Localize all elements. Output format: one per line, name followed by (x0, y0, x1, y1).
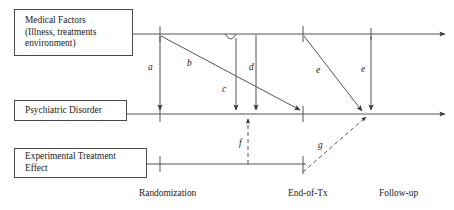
figure-canvas: Medical Factors (Illness, treatments env… (0, 0, 454, 210)
line-hop-bridge (225, 34, 236, 39)
path-label-b: b (187, 58, 192, 68)
path-e1-arrow (304, 36, 362, 111)
path-label-d: d (249, 62, 254, 72)
path-label-c: c (222, 84, 226, 94)
path-g-arrow (303, 117, 366, 172)
path-label-g: g (318, 140, 323, 150)
axis-label-randomization: Randomization (139, 188, 196, 198)
path-b-arrow (161, 36, 300, 110)
path-label-f: f (239, 138, 242, 148)
path-label-a: a (148, 62, 153, 72)
axis-label-end-of-tx: End-of-Tx (288, 188, 328, 198)
path-label-e2: e (361, 64, 365, 74)
axis-label-follow-up: Follow-up (379, 188, 418, 198)
path-diagram-graphic (0, 0, 454, 210)
path-label-e1: e (316, 65, 320, 75)
